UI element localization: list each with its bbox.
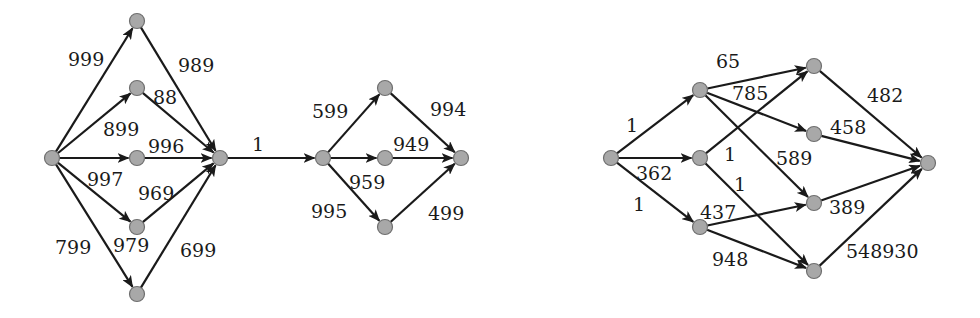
graph-node-d2 <box>807 127 822 142</box>
edge-weight-label: 999 <box>68 48 104 70</box>
edge-weight-label: 979 <box>113 234 149 256</box>
graph-node-u3 <box>130 151 145 166</box>
edge-weight-label: 989 <box>178 54 214 76</box>
edge-weight-label: 699 <box>180 239 216 261</box>
graph-node-d1 <box>807 59 822 74</box>
graph-node-m0 <box>316 151 331 166</box>
graph-node-a <box>693 83 708 98</box>
edge-weight-label: 362 <box>636 162 672 184</box>
graph-node-u1 <box>130 14 145 29</box>
edge-weight-label: 1 <box>724 143 736 165</box>
graph-node-b <box>693 151 708 166</box>
network-flow-diagram: 9998999979797999898899696969915999599959… <box>0 0 980 318</box>
graph-node-m3 <box>378 220 393 235</box>
edge-weight-label: 785 <box>732 82 768 104</box>
graph-node-t <box>921 156 936 171</box>
graph-node-h <box>213 151 228 166</box>
graph-node-d4 <box>807 264 822 279</box>
edge-weight-label: 88 <box>153 86 177 108</box>
graph-node-u5 <box>130 287 145 302</box>
edge-weight-label: 994 <box>430 98 466 120</box>
edge-weight-label: 899 <box>103 118 139 140</box>
edge-weight-label: 437 <box>700 201 736 223</box>
edge-weight-label: 1 <box>626 114 638 136</box>
edge-weight-label: 1 <box>633 193 645 215</box>
graph-node-d3 <box>807 196 822 211</box>
graph-node-u2 <box>130 81 145 96</box>
graph-node-m2 <box>378 151 393 166</box>
graph-node-m1 <box>378 81 393 96</box>
edge-weight-label: 499 <box>428 202 464 224</box>
edge-weight-label: 458 <box>830 116 866 138</box>
edge-weight-label: 949 <box>393 133 429 155</box>
edge-weight-label: 389 <box>829 196 865 218</box>
edge-weight-label: 548930 <box>846 240 919 262</box>
edge-weight-label: 959 <box>349 171 385 193</box>
edge-weight-label: 65 <box>716 50 740 72</box>
edge-weight-label: 1 <box>252 133 264 155</box>
edge-weight-label: 589 <box>776 147 812 169</box>
edge-weight-label: 799 <box>55 236 91 258</box>
edge-d2-t <box>821 136 919 161</box>
edge-weight-label: 969 <box>138 182 174 204</box>
edge-weight-label: 997 <box>87 168 123 190</box>
edge-weight-label: 948 <box>712 248 748 270</box>
graph-node-t <box>454 151 469 166</box>
edge-weight-label: 996 <box>148 135 184 157</box>
graph-node-s <box>45 151 60 166</box>
edge-weight-label: 482 <box>867 84 903 106</box>
graph-node-r0 <box>604 151 619 166</box>
edge-weight-label: 995 <box>311 200 347 222</box>
graph-node-u4 <box>130 220 145 235</box>
edge-weight-label: 599 <box>312 100 348 122</box>
edge-weight-label: 1 <box>734 173 746 195</box>
